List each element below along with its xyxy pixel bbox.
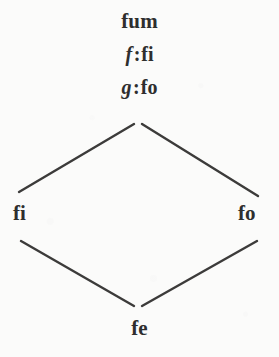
edge-top-left xyxy=(19,124,134,192)
assignment-variable-g: g xyxy=(122,76,132,98)
assignment-separator-f: : xyxy=(132,43,141,65)
node-right-label: fo xyxy=(238,201,256,225)
assignment-value-f: fi xyxy=(141,43,153,65)
edge-left-bottom xyxy=(21,241,134,306)
node-top-assignment-f: f:fi xyxy=(0,44,279,77)
node-bottom-label: fe xyxy=(131,316,148,340)
node-left-label: fi xyxy=(13,201,26,225)
lattice-diagram-figure: fum f:fi g:fo fi fo fe xyxy=(0,0,279,357)
node-left: fi xyxy=(13,203,26,224)
edge-right-bottom xyxy=(142,241,257,306)
node-right: fo xyxy=(238,203,256,224)
edge-top-right xyxy=(142,124,258,196)
node-bottom: fe xyxy=(0,318,279,339)
assignment-value-g: fo xyxy=(141,76,158,98)
node-top-label: fum xyxy=(0,11,279,44)
node-top: fum f:fi g:fo xyxy=(0,11,279,110)
assignment-separator-g: : xyxy=(132,76,141,98)
node-top-assignment-g: g:fo xyxy=(0,77,279,110)
